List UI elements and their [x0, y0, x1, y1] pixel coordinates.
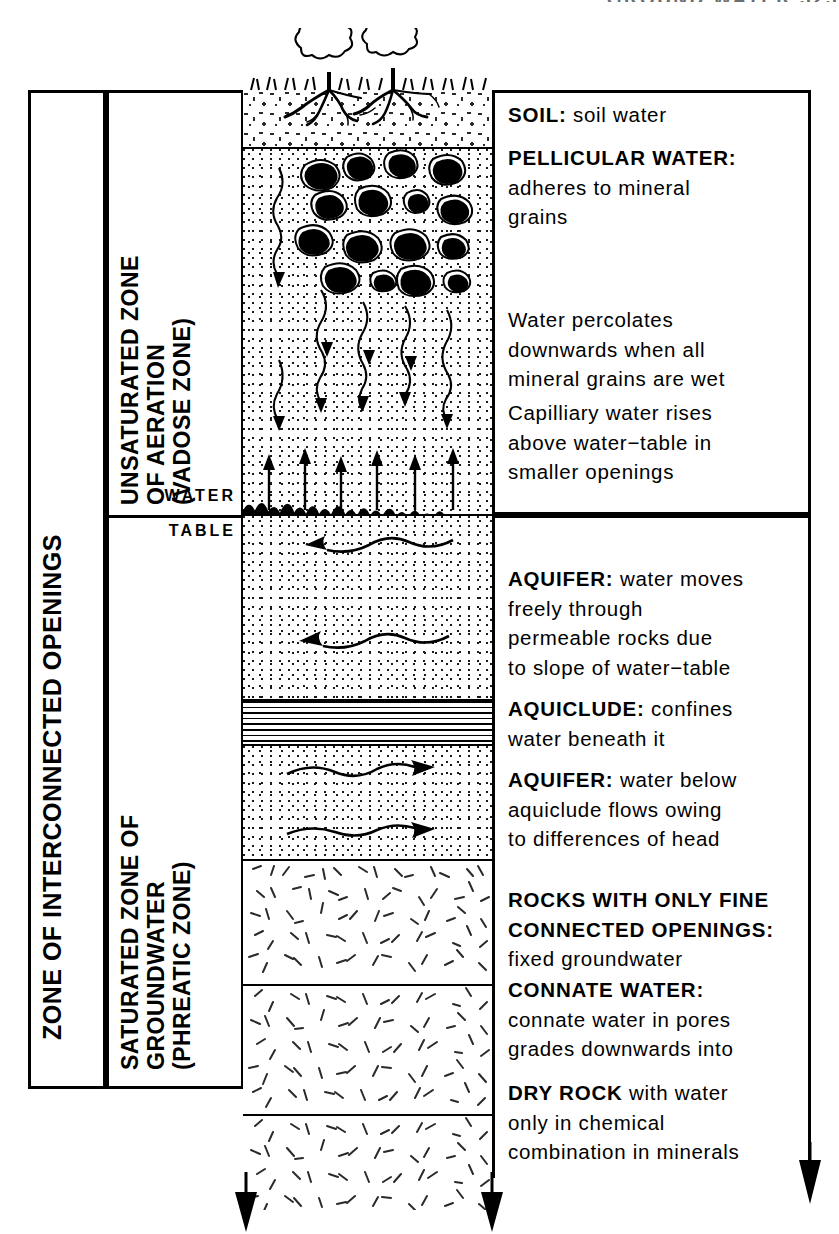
- description-pellicular-body: adheres to mineral grains: [508, 176, 690, 229]
- label-zone-interconnected: ZONE OF INTERCONNECTED OPENINGS: [38, 140, 66, 1040]
- column-right-continuation-arrow: [478, 1172, 506, 1234]
- description-dry-rock-head: DRY ROCK: [508, 1081, 623, 1104]
- label-saturated-line2: GROUNDWATER: [144, 525, 170, 1070]
- description-fine-connected-body: fixed groundwater: [508, 947, 683, 970]
- label-saturated-line3: (PHREATIC ZONE): [170, 525, 196, 1070]
- layer-aquiclude: [243, 701, 492, 744]
- description-aquifer-upper: AQUIFER: water moves freely through perm…: [508, 564, 808, 682]
- label-unsaturated-line3: (VADOSE ZONE): [170, 85, 196, 505]
- column-left-continuation-arrow: [232, 1172, 260, 1234]
- description-fine-connected-head: ROCKS WITH ONLY FINE CONNECTED OPENINGS:: [508, 888, 774, 941]
- vegetation-and-roots: [243, 28, 492, 150]
- description-fine-connected: ROCKS WITH ONLY FINE CONNECTED OPENINGS:…: [508, 885, 818, 974]
- description-aquifer-upper-head: AQUIFER:: [508, 567, 613, 590]
- description-aquiclude: AQUICLUDE: confines water beneath it: [508, 694, 808, 753]
- geological-column: [243, 90, 492, 1210]
- description-percolation-body: Water percolates downwards when all mine…: [508, 308, 725, 390]
- layer-fine-connected-openings: [243, 861, 492, 984]
- page-running-head: GROUND WATER 323: [405, 0, 839, 2]
- capillary-fringe-arrows-upward: [243, 448, 492, 518]
- description-dry-rock: DRY ROCK with water only in chemical com…: [508, 1078, 808, 1167]
- aquifer-upper-flow-arrows: [243, 516, 492, 700]
- description-aquifer-lower-head: AQUIFER:: [508, 768, 613, 791]
- description-percolation: Water percolates downwards when all mine…: [508, 305, 808, 394]
- description-capillary: Capilliary water rises above water−table…: [508, 398, 808, 487]
- description-pellicular: PELLICULAR WATER: adheres to mineral gra…: [508, 143, 808, 232]
- description-aquifer-lower: AQUIFER: water below aquiclude flows owi…: [508, 765, 808, 854]
- description-capillary-body: Capilliary water rises above water−table…: [508, 401, 713, 483]
- water-table-label-line2: TABLE: [108, 522, 236, 540]
- description-soil: SOIL: soil water: [508, 100, 808, 130]
- description-connate-head: CONNATE WATER:: [508, 978, 704, 1001]
- layer-connate-water-rock: [243, 986, 492, 1114]
- description-soil-body: soil water: [567, 103, 667, 126]
- diagram-page: GROUND WATER 323 ZONE OF INTERCONNECTED …: [0, 0, 839, 1234]
- label-zone-saturated: SATURATED ZONE OF GROUNDWATER (PHREATIC …: [118, 525, 195, 1070]
- water-table-label-line1: WATER: [108, 487, 236, 505]
- layer-dry-rock: [243, 1116, 492, 1210]
- aquifer-lower-flow-arrows: [243, 746, 492, 860]
- label-saturated-line1: SATURATED ZONE OF: [118, 525, 144, 1070]
- description-connate: CONNATE WATER: connate water in pores gr…: [508, 975, 808, 1064]
- description-pellicular-head: PELLICULAR WATER:: [508, 146, 736, 169]
- description-connate-body: connate water in pores grades downwards …: [508, 1008, 734, 1061]
- description-soil-head: SOIL:: [508, 103, 567, 126]
- label-zone-unsaturated: UNSATURATED ZONE OF AERATION (VADOSE ZON…: [118, 85, 195, 505]
- description-aquiclude-head: AQUICLUDE:: [508, 697, 645, 720]
- label-unsaturated-line2: OF AERATION: [144, 85, 170, 505]
- water-table-divider: [106, 515, 244, 518]
- label-unsaturated-line1: UNSATURATED ZONE: [118, 85, 144, 505]
